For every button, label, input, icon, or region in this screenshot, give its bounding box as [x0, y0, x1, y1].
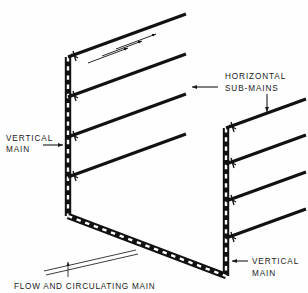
- sub-main-right-1: [226, 99, 306, 128]
- label-vertical-main-right-line1: VERTICAL: [252, 257, 299, 266]
- label-vertical-main-left-line2: MAIN: [6, 145, 30, 154]
- junction-ticks-left: [71, 51, 78, 181]
- sub-main-left-1: [68, 14, 186, 57]
- leader-flow-and-circulating-main: [44, 250, 138, 277]
- piping-diagram: VERTICAL MAIN HORIZONTAL SUB-MAINS VERTI…: [0, 0, 308, 293]
- label-flow-and-circulating-main: FLOW AND CIRCULATING MAIN: [14, 282, 155, 291]
- label-horizontal-sub-mains-line2: SUB-MAINS: [225, 84, 279, 93]
- diagram-canvas: VERTICAL MAIN HORIZONTAL SUB-MAINS VERTI…: [0, 0, 308, 293]
- sub-main-right-4: [226, 209, 306, 238]
- flow-and-circulating-main-pipe: [68, 216, 226, 276]
- label-vertical-main-left-line1: VERTICAL: [6, 134, 53, 143]
- sub-main-right-3: [226, 172, 306, 201]
- sub-main-right-2: [226, 135, 306, 164]
- sub-main-left-3: [68, 94, 186, 137]
- label-horizontal-sub-mains-line1: HORIZONTAL: [225, 72, 286, 81]
- label-vertical-main-right-line2: MAIN: [252, 269, 276, 278]
- sub-main-left-2: [68, 54, 186, 97]
- junction-ticks-right: [229, 122, 236, 242]
- sub-main-left-4: [68, 134, 186, 177]
